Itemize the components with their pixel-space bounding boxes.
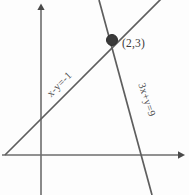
intersection-point-dot	[107, 35, 118, 46]
diagram-canvas: (2,3) x-y=-1 3x+y=9	[0, 0, 189, 195]
y-axis-arrow-icon	[37, 4, 44, 11]
intersection-point-label: (2,3)	[122, 37, 145, 50]
line-2-equation-label: 3x+y=9	[136, 81, 157, 117]
x-axis-arrow-icon	[178, 151, 185, 159]
line-x-minus-y-equals-minus-1	[5, 0, 189, 155]
line-1-equation-label: x-y=-1	[45, 70, 74, 99]
line-intersection-diagram: (2,3) x-y=-1 3x+y=9	[0, 0, 189, 195]
axes-group	[2, 4, 185, 196]
line-1-stroke	[5, 0, 189, 155]
